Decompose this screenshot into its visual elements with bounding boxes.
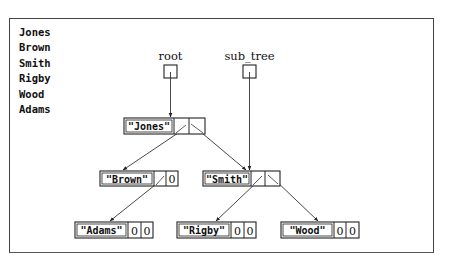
null-right: 0 [349, 225, 356, 238]
edges [110, 72, 318, 221]
null-left: 0 [337, 225, 344, 238]
node-value: "Wood" [289, 225, 325, 236]
node-value: "Adams" [80, 225, 122, 236]
node-brown: "Brown" 0 [100, 171, 178, 186]
sub-tree-label: sub_tree [224, 49, 274, 63]
null-right: 0 [169, 173, 176, 186]
node-value: "Smith" [206, 174, 248, 185]
node-value: "Jones" [128, 121, 170, 132]
null-right: 0 [247, 225, 254, 238]
null-left: 0 [131, 225, 138, 238]
edge-brown-adams [110, 181, 160, 221]
node-jones: "Jones" [124, 118, 205, 134]
null-left: 0 [234, 225, 241, 238]
node-value: "Rigby" [183, 225, 225, 236]
edge-jones-brown [123, 131, 181, 170]
root-label: root [159, 49, 183, 63]
node-wood: "Wood" 0 0 [281, 222, 359, 238]
node-value: "Brown" [106, 174, 148, 185]
tree-diagram: root sub_tree "Jones" "Brown" 0 [0, 0, 452, 269]
null-right: 0 [144, 225, 151, 238]
node-smith: "Smith" [203, 171, 280, 186]
node-adams: "Adams" 0 0 [75, 222, 153, 238]
node-rigby: "Rigby" 0 0 [177, 222, 256, 238]
edge-smith-rigby [216, 181, 258, 221]
